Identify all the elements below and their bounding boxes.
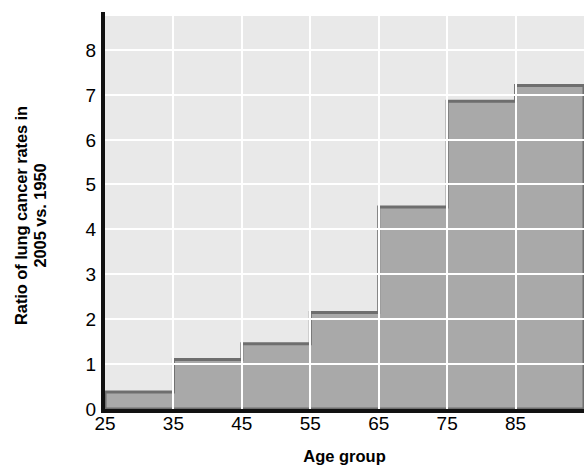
x-tick-label: 55	[300, 414, 321, 433]
x-axis-tick-labels: 25354555657585	[0, 414, 584, 444]
x-tick-label: 75	[437, 414, 458, 433]
gridline-horizontal	[105, 273, 584, 275]
gridline-vertical	[446, 16, 448, 409]
plot-area	[105, 16, 584, 409]
y-axis-line	[101, 12, 105, 413]
y-tick-label: 5	[85, 175, 96, 194]
y-axis-tick-labels: 012345678	[62, 0, 102, 475]
y-tick-label: 7	[85, 85, 96, 104]
y-tick-label: 3	[85, 265, 96, 284]
y-tick-label: 4	[85, 220, 96, 239]
x-tick-label: 65	[368, 414, 389, 433]
y-axis-title-line1: Ratio of lung cancer rates in	[12, 106, 30, 325]
gridline-horizontal	[105, 49, 584, 51]
y-tick-label: 1	[85, 355, 96, 374]
x-tick-label: 45	[231, 414, 252, 433]
y-tick-label: 8	[85, 40, 96, 59]
x-tick-label: 35	[163, 414, 184, 433]
step-area-path	[105, 86, 584, 409]
y-tick-label: 2	[85, 310, 96, 329]
gridline-vertical	[241, 16, 243, 409]
x-axis-title: Age group	[105, 447, 584, 466]
gridline-horizontal	[105, 183, 584, 185]
x-tick-label: 85	[505, 414, 526, 433]
x-tick-label: 25	[94, 414, 115, 433]
gridline-horizontal	[105, 94, 584, 96]
y-axis-title: Ratio of lung cancer rates in 2005 vs. 1…	[0, 0, 62, 430]
gridline-horizontal	[105, 363, 584, 365]
gridline-vertical	[309, 16, 311, 409]
gridline-vertical	[378, 16, 380, 409]
gridline-vertical	[515, 16, 517, 409]
y-axis-title-line2: 2005 vs. 1950	[31, 106, 50, 325]
chart-figure: Ratio of lung cancer rates in 2005 vs. 1…	[0, 0, 584, 475]
gridline-horizontal	[105, 139, 584, 141]
gridline-horizontal	[105, 318, 584, 320]
gridline-horizontal	[105, 228, 584, 230]
step-area-series	[105, 16, 584, 409]
y-tick-label: 6	[85, 130, 96, 149]
gridline-vertical	[172, 16, 174, 409]
